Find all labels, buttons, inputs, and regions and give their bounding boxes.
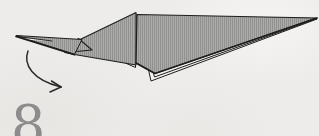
main-wing [136, 15, 317, 74]
fold-direction-arrow [27, 51, 61, 92]
step-number-label: 8 [11, 99, 45, 136]
origami-figure [0, 0, 319, 136]
origami-step-diagram: 8 [0, 0, 319, 136]
